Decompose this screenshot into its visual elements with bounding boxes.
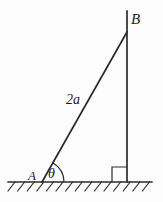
length-label-2a: 2a [66,93,80,107]
geometry-figure: B 2a A θ [0,0,163,202]
ground-hatching [8,182,149,191]
figure-canvas [0,0,163,202]
angle-label-theta: θ [48,167,55,181]
inclined-rod-line [42,32,127,182]
right-angle-marker [112,167,127,182]
vertex-label-a: A [28,169,36,182]
vertex-label-b: B [131,12,140,27]
